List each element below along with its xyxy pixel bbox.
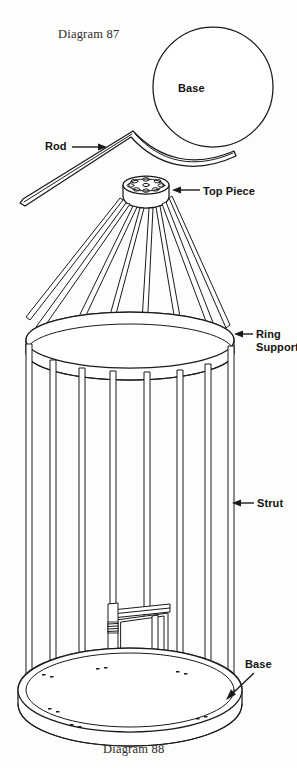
top-piece-leader — [172, 186, 200, 193]
rod-leader — [72, 143, 107, 150]
base-disc-top — [153, 27, 273, 147]
strut-leader — [232, 499, 254, 506]
base-platform-part — [18, 648, 242, 746]
caption-diagram-87: Diagram 87 — [58, 27, 119, 42]
diagram-artwork — [0, 0, 297, 768]
label-ring-support: Ring Support — [256, 328, 297, 353]
door-hinge-upper — [108, 622, 118, 633]
label-top-piece: Top Piece — [203, 185, 255, 198]
label-base-top: Base — [178, 82, 205, 95]
label-base-bottom: Base — [245, 658, 272, 671]
label-rod: Rod — [45, 140, 67, 153]
ring-support-leader — [234, 330, 253, 337]
top-piece-part — [123, 176, 169, 208]
ring-support-part — [26, 312, 234, 380]
caption-diagram-88: Diagram 88 — [103, 742, 164, 757]
diagram-figure: Base Rod Top Piece Ring Support Strut Ba… — [0, 0, 297, 768]
label-strut: Strut — [257, 497, 283, 510]
